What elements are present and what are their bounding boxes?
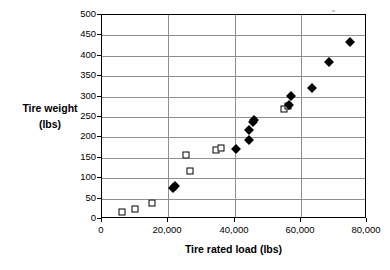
scatter-chart-figure: Tire weight (lbs) 0501001502002503003504… xyxy=(0,0,390,270)
y-tick-label: 150 xyxy=(56,152,96,162)
data-point-filled-diamond xyxy=(286,91,296,101)
data-point-filled-diamond xyxy=(324,57,334,67)
data-point-open-square xyxy=(186,167,193,174)
gridline-vertical xyxy=(301,15,302,217)
y-tick-label: 400 xyxy=(56,50,96,60)
data-point-open-square xyxy=(218,144,225,151)
x-tick-mark xyxy=(167,218,168,222)
data-point-open-square xyxy=(148,199,155,206)
x-axis-title: Tire rated load (lbs) xyxy=(101,243,366,255)
gridline-horizontal xyxy=(102,76,365,77)
x-tick-mark xyxy=(101,218,102,222)
y-tick-label: 300 xyxy=(56,91,96,101)
x-tick-label: 60,000 xyxy=(270,224,330,235)
data-point-open-square xyxy=(132,206,139,213)
y-tick-label: 50 xyxy=(56,193,96,203)
gridline-horizontal xyxy=(102,178,365,179)
data-point-filled-diamond xyxy=(307,83,317,93)
scan-artifact xyxy=(332,10,335,12)
y-tick-label: 350 xyxy=(56,70,96,80)
data-point-filled-diamond xyxy=(231,144,241,154)
gridline-vertical xyxy=(235,15,236,217)
x-tick-label: 0 xyxy=(71,224,131,235)
y-tick-label: 100 xyxy=(56,172,96,182)
gridline-horizontal xyxy=(102,158,365,159)
y-tick-label: 500 xyxy=(56,9,96,19)
gridline-horizontal xyxy=(102,199,365,200)
gridline-horizontal xyxy=(102,97,365,98)
y-tick-label: 450 xyxy=(56,29,96,39)
gridline-horizontal xyxy=(102,117,365,118)
data-point-open-square xyxy=(118,209,125,216)
y-tick-label: 0 xyxy=(56,213,96,223)
plot-area xyxy=(101,14,366,218)
data-point-open-square xyxy=(183,152,190,159)
x-tick-mark xyxy=(366,218,367,222)
y-tick-label: 250 xyxy=(56,111,96,121)
x-tick-label: 80,000 xyxy=(336,224,390,235)
data-point-filled-diamond xyxy=(345,37,355,47)
y-tick-label: 200 xyxy=(56,131,96,141)
x-tick-label: 20,000 xyxy=(137,224,197,235)
gridline-horizontal xyxy=(102,56,365,57)
x-tick-mark xyxy=(300,218,301,222)
x-tick-mark xyxy=(234,218,235,222)
x-tick-label: 40,000 xyxy=(204,224,264,235)
gridline-horizontal xyxy=(102,35,365,36)
gridline-horizontal xyxy=(102,137,365,138)
